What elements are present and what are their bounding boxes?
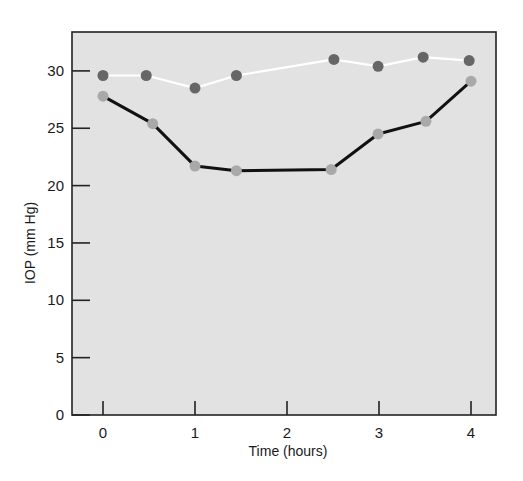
data-point-marker	[98, 91, 109, 102]
x-tick-label: 3	[375, 424, 383, 441]
data-point-marker	[190, 161, 201, 172]
y-tick-label: 25	[47, 119, 64, 136]
data-point-marker	[466, 76, 477, 87]
plot-area	[72, 32, 496, 415]
data-point-marker	[141, 70, 152, 81]
x-tick-label: 2	[283, 424, 291, 441]
data-point-marker	[464, 55, 475, 66]
x-tick-label: 4	[467, 424, 475, 441]
y-tick-label: 5	[56, 349, 64, 366]
data-point-marker	[418, 52, 429, 63]
data-point-marker	[373, 61, 384, 72]
data-point-marker	[190, 83, 201, 94]
data-point-marker	[326, 164, 337, 175]
iop-line-chart: 051015202530 01234 Time (hours) IOP (mm …	[0, 0, 523, 481]
y-axis-title: IOP (mm Hg)	[22, 202, 38, 284]
data-point-marker	[147, 118, 158, 129]
data-point-marker	[420, 116, 431, 127]
x-axis-title: Time (hours)	[249, 443, 328, 459]
y-tick-label: 15	[47, 234, 64, 251]
y-tick-label: 30	[47, 62, 64, 79]
y-tick-label: 10	[47, 291, 64, 308]
data-point-marker	[373, 128, 384, 139]
data-point-marker	[231, 165, 242, 176]
data-point-marker	[328, 54, 339, 65]
data-point-marker	[98, 70, 109, 81]
y-tick-label: 0	[56, 406, 64, 423]
y-tick-label: 20	[47, 177, 64, 194]
x-tick-label: 1	[191, 424, 199, 441]
x-tick-label: 0	[99, 424, 107, 441]
data-point-marker	[231, 70, 242, 81]
